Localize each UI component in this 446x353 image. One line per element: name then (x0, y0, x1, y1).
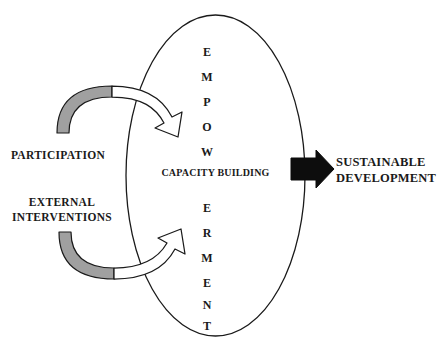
crescent-lower (59, 232, 114, 279)
empowerment-letter-t: T (203, 319, 211, 333)
capacity-building-label: CAPACITY BUILDING (161, 167, 269, 178)
crescent-upper (57, 86, 112, 133)
empowerment-letter-n: N (203, 298, 212, 312)
empowerment-letter-r: R (203, 226, 212, 240)
empowerment-letter-o: O (202, 120, 211, 134)
capacity-building-diagram: CAPACITY BUILDING E M P O W E R M E N T … (0, 0, 446, 353)
empowerment-letter-w: W (201, 145, 213, 159)
empowerment-letter-e1: E (203, 45, 211, 59)
outcome-label-line2: DEVELOPMENT (336, 171, 437, 185)
outcome-label-line1: SUSTAINABLE (336, 155, 426, 169)
diagram-canvas: CAPACITY BUILDING E M P O W E R M E N T … (0, 0, 446, 353)
empowerment-letter-e3: E (203, 276, 211, 290)
external-label-line1: EXTERNAL (29, 196, 95, 208)
empowerment-letter-m2: M (201, 251, 212, 265)
empowerment-letter-e2: E (203, 201, 211, 215)
external-label-line2: INTERVENTIONS (12, 211, 112, 223)
empowerment-letter-p: P (203, 95, 210, 109)
participation-label: PARTICIPATION (11, 149, 106, 161)
empowerment-letter-m1: M (201, 70, 212, 84)
